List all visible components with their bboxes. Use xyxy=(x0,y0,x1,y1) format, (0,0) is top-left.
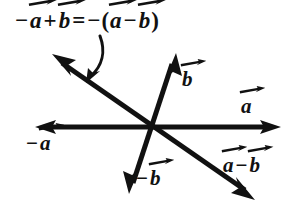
label-neg-a-vector: a xyxy=(39,133,52,154)
equation-a-2-glyph: a xyxy=(110,9,122,32)
label-neg-b-vector: b xyxy=(149,168,162,189)
label-b-glyph: b xyxy=(182,69,193,90)
vector-diagram-figure: −a+b=−(a−b) b a −a −b a−b xyxy=(0,0,294,215)
equation-pointer-curve xyxy=(91,36,103,76)
equation-b-1-glyph: b xyxy=(59,9,71,32)
vector-label-b: b xyxy=(181,69,194,90)
label-a-minus-b-second: b xyxy=(248,155,261,176)
vector-label-neg-a: −a xyxy=(25,133,51,154)
equation-vector-b-1: b xyxy=(58,9,72,32)
equation-close-paren: ) xyxy=(151,9,159,32)
vector-label-a: a xyxy=(240,96,253,117)
label-a-minus-b-first: a xyxy=(222,155,235,176)
vector-label-neg-b: −b xyxy=(135,168,161,189)
arrowhead-b xyxy=(166,53,182,77)
equation-vector-a-2: a xyxy=(109,9,123,32)
equation-plus: + xyxy=(43,9,58,32)
equation-b-2-glyph: b xyxy=(139,9,151,32)
label-neg-b-glyph: b xyxy=(150,168,161,189)
label-neg-b-minus: − xyxy=(135,168,149,189)
label-a-minus-b-b-glyph: b xyxy=(249,155,260,176)
equation-minus-1: − xyxy=(14,9,29,32)
equation-minus-2: − xyxy=(86,9,101,32)
label-a-minus-b-a-glyph: a xyxy=(223,155,234,176)
label-a-glyph: a xyxy=(241,96,252,117)
equation-vector-b-2: b xyxy=(138,9,152,32)
equation-minus-3: − xyxy=(123,9,138,32)
label-a-minus-b-operator: − xyxy=(235,155,249,176)
vector-label-a-minus-b: a−b xyxy=(222,155,261,176)
label-neg-a-glyph: a xyxy=(40,133,51,154)
equation-text: −a+b=−(a−b) xyxy=(14,9,159,32)
equation-open-paren: ( xyxy=(101,9,109,32)
equation-vector-a-1: a xyxy=(29,9,43,32)
equation-a-1-glyph: a xyxy=(30,9,42,32)
label-neg-a-minus: − xyxy=(25,133,39,154)
equation-equals: = xyxy=(71,9,86,32)
label-a-vector: a xyxy=(240,96,253,117)
label-b-vector: b xyxy=(181,69,194,90)
